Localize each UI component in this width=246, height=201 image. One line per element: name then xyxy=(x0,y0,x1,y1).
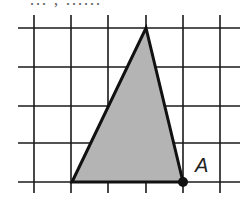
point-a-label: A xyxy=(194,154,208,176)
point-a-marker xyxy=(178,177,188,187)
shaded-triangle xyxy=(72,28,183,182)
grid-triangle-diagram: A xyxy=(0,0,246,201)
